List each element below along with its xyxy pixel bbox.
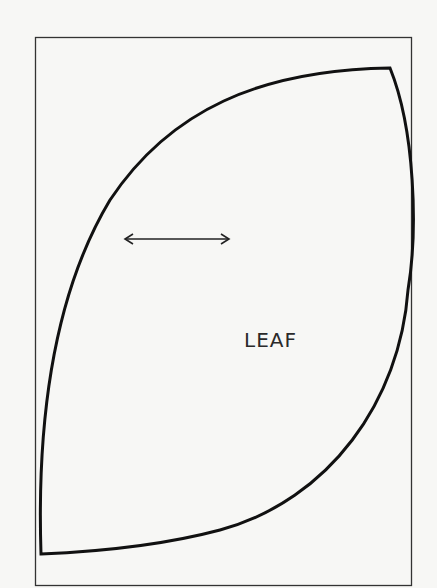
leaf-outline xyxy=(40,68,413,554)
piece-label: LEAF xyxy=(244,328,297,352)
grainline-arrow-icon xyxy=(125,234,229,244)
pattern-diagram xyxy=(0,0,437,588)
bounding-frame xyxy=(36,38,412,586)
